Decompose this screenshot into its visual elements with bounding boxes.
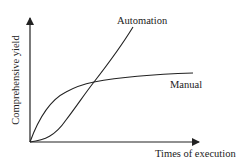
chart-canvas: Automation Manual Times of execution Com…	[0, 0, 244, 167]
automation-curve	[30, 27, 133, 142]
chart: Automation Manual Times of execution Com…	[0, 0, 244, 167]
x-axis-label: Times of execution	[155, 148, 236, 159]
manual-label: Manual	[170, 79, 202, 90]
automation-label: Automation	[117, 15, 168, 26]
y-axis-label: Comprehensive yield	[10, 34, 21, 124]
manual-curve	[30, 73, 193, 142]
